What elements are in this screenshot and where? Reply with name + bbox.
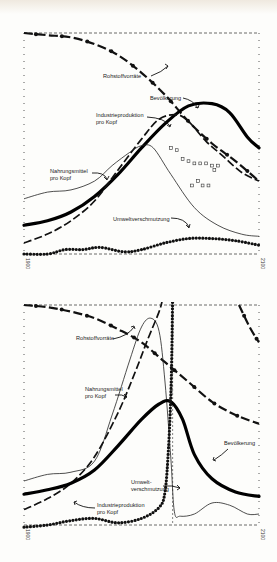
series-label: pro Kopf bbox=[96, 119, 118, 125]
series-label: pro Kopf bbox=[85, 393, 107, 399]
series-industrieproduktion-pro-kopf bbox=[24, 298, 163, 509]
series-label: Umwelt- bbox=[131, 479, 152, 485]
series-label: pro Kopf bbox=[97, 509, 119, 515]
x-tick-end: 2100 bbox=[260, 258, 266, 269]
series-markers bbox=[34, 304, 239, 418]
series-label: Industrieproduktion bbox=[96, 112, 144, 118]
series-open-squares bbox=[169, 147, 219, 187]
x-tick-start: 1900 bbox=[25, 529, 31, 540]
annotation-arrow bbox=[171, 218, 190, 228]
x-tick-start: 1900 bbox=[25, 258, 31, 269]
series-label: Rohstoffvorräte bbox=[103, 73, 141, 79]
annotation-arrow bbox=[213, 449, 228, 461]
x-tick-end: 2100 bbox=[260, 529, 266, 540]
annotation-arrow bbox=[151, 64, 168, 76]
annotation-arrow bbox=[115, 394, 127, 399]
series-label: Rohstoffvorräte bbox=[76, 335, 114, 341]
series-label: pro Kopf bbox=[50, 175, 72, 181]
annotation-arrow bbox=[74, 501, 95, 508]
series-label: Bevölkerung bbox=[224, 440, 255, 446]
series-label: Umweltverschmutzung bbox=[113, 216, 170, 222]
series-label: Nahrungsmittel bbox=[85, 386, 123, 392]
series-label: verschmutzung bbox=[131, 486, 169, 492]
series-umweltverschmutzung bbox=[24, 238, 259, 254]
annotations: RohstoffvorräteBevölkerungIndustrieprodu… bbox=[50, 73, 181, 222]
series-markers bbox=[34, 32, 249, 173]
series-label: Nahrungsmittel bbox=[50, 168, 88, 174]
series-rohstoffvorraete bbox=[24, 305, 259, 424]
plot-area bbox=[24, 298, 259, 527]
chart-standard-run: RohstoffvorräteBevölkerungIndustrieprodu… bbox=[0, 0, 277, 280]
series-nahrungsmittel-pro-kopf bbox=[24, 145, 259, 237]
series-label: Bevölkerung bbox=[150, 95, 181, 101]
chart-resources-doubled-run: RohstoffvorräteNahrungsmittelpro KopfBev… bbox=[0, 280, 277, 562]
series-label: Industrieproduktion bbox=[97, 502, 145, 508]
series-bevoelkerung bbox=[24, 103, 259, 225]
